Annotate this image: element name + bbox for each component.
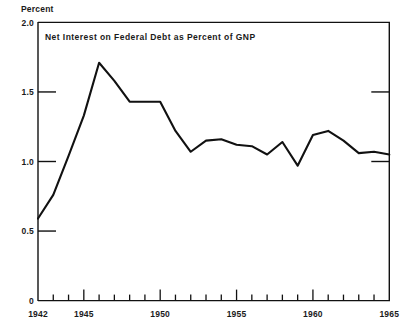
x-tick-label-1965: 1965 — [379, 309, 399, 319]
chart-plot-area: 2.01.51.00.50 194219451950195519601965 P… — [0, 0, 417, 334]
axis-frame — [38, 22, 390, 301]
x-tick-marks — [53, 290, 374, 301]
x-tick-label-1955: 1955 — [227, 309, 247, 319]
y-tick-labels: 2.01.51.00.50 — [22, 18, 34, 306]
y-tick-label-0: 0 — [29, 296, 34, 306]
x-tick-label-1945: 1945 — [74, 309, 94, 319]
y-axis-unit-label: Percent — [21, 4, 54, 14]
y-tick-label-1.5: 1.5 — [22, 87, 34, 97]
x-tick-label-1942: 1942 — [28, 309, 48, 319]
x-tick-labels: 194219451950195519601965 — [28, 309, 399, 319]
y-tick-label-2: 2.0 — [22, 18, 34, 28]
y-tick-marks — [38, 92, 389, 231]
y-tick-label-1: 1.0 — [22, 157, 34, 167]
chart-figure: 2.01.51.00.50 194219451950195519601965 P… — [0, 0, 417, 334]
chart-title: Net Interest on Federal Debt as Percent … — [45, 32, 256, 42]
data-series-line — [38, 63, 389, 219]
y-tick-label-0.5: 0.5 — [22, 226, 34, 236]
x-tick-label-1960: 1960 — [303, 309, 323, 319]
x-tick-label-1950: 1950 — [150, 309, 170, 319]
